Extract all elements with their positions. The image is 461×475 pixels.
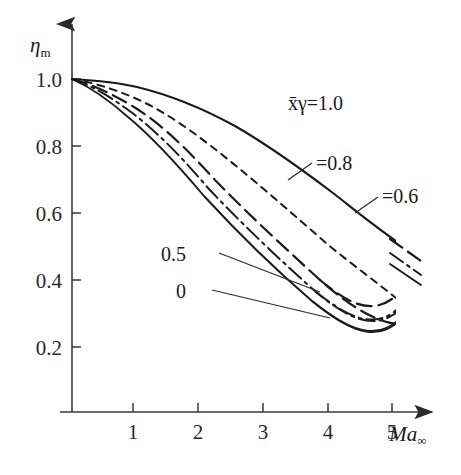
x-axis-title-symbol: Ma [388,422,417,446]
label-xgamma-1.0: x̄γ=1.0 [288,92,343,115]
curve-xgamma-0.6 [72,79,421,324]
label-xgamma-0: 0 [176,280,186,302]
curve-xgamma-0.5 [72,79,421,321]
y-tick-label-0.2: 0.2 [36,336,62,360]
y-tick-label-0.6: 0.6 [36,202,62,226]
y-tick-label-1.0: 1.0 [36,68,62,92]
x-tick-label-2: 2 [193,420,204,444]
x-tick-label-3: 3 [258,420,269,444]
x-tick-group: 1 2 3 4 5 [128,403,398,444]
curve-xgamma-1.0 [72,79,421,258]
y-tick-group: 1.0 0.8 0.6 0.4 0.2 [36,68,81,360]
label-xgamma-0.8: =0.8 [316,152,352,174]
leader-0.6 [355,197,378,213]
figure-container: 1.0 0.8 0.6 0.4 0.2 1 2 3 4 5 ηm Ma∞ [0,0,461,475]
x-tick-label-1: 1 [128,420,139,444]
x-axis-title-subscript: ∞ [417,433,426,448]
curve-group [72,79,421,332]
x-axis-title: Ma∞ [388,422,426,448]
leader-line-group [212,163,378,318]
leader-0.5 [219,253,320,292]
leader-0.8 [288,163,312,180]
y-tick-label-0.4: 0.4 [36,269,63,293]
y-axis-title: ηm [30,33,51,60]
y-axis-title-symbol: η [30,33,40,57]
label-xgamma-0.5: 0.5 [161,243,186,265]
label-xgamma-0.6: =0.6 [382,185,418,207]
x-tick-label-4: 4 [323,420,334,444]
curve-label-group: x̄γ=1.0 =0.8 =0.6 0.5 0 [161,92,418,302]
right-mask [396,225,461,375]
axis-title-group: ηm Ma∞ [30,33,427,448]
curve-right-segments [390,225,461,375]
leader-0 [212,290,330,318]
curve-xgamma-0 [72,79,421,332]
efficiency-vs-mach-chart: 1.0 0.8 0.6 0.4 0.2 1 2 3 4 5 ηm Ma∞ [0,0,461,475]
y-tick-label-0.8: 0.8 [36,135,62,159]
y-axis-title-subscript: m [40,45,50,60]
